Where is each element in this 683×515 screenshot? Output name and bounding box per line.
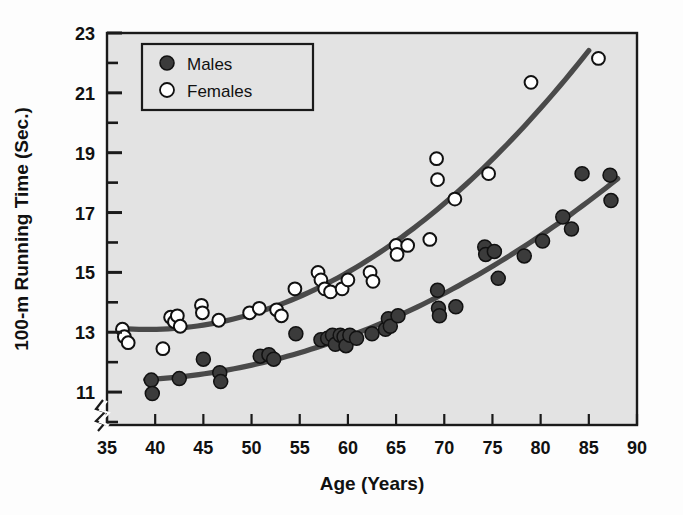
data-point <box>156 342 169 355</box>
data-point <box>604 194 618 208</box>
data-point <box>391 309 405 323</box>
data-point <box>592 52 605 65</box>
data-point <box>487 244 501 258</box>
y-tick-label: 17 <box>75 204 95 224</box>
x-tick-label: 80 <box>531 438 551 458</box>
x-tick-label: 65 <box>386 438 406 458</box>
y-tick-label: 23 <box>75 24 95 44</box>
data-point <box>172 372 186 386</box>
data-point <box>536 234 550 248</box>
data-point <box>423 233 436 246</box>
data-point <box>289 282 302 295</box>
data-point <box>431 283 445 297</box>
data-point <box>603 168 617 182</box>
data-point <box>431 173 444 186</box>
data-point <box>122 336 135 349</box>
y-tick-label: 19 <box>75 144 95 164</box>
data-point <box>491 271 505 285</box>
data-point <box>525 76 538 89</box>
data-point <box>556 210 570 224</box>
data-point <box>145 387 159 401</box>
x-tick-label: 70 <box>434 438 454 458</box>
data-point <box>289 327 303 341</box>
y-tick-label: 21 <box>75 84 95 104</box>
x-tick-label: 35 <box>97 438 117 458</box>
chart-legend: Males Females <box>142 44 313 110</box>
data-point <box>253 302 266 315</box>
x-tick-label: 55 <box>290 438 310 458</box>
data-point <box>367 275 380 288</box>
y-axis-title: 100-m Running Time (Sec.) <box>11 107 32 351</box>
legend-marker-females <box>160 83 174 97</box>
data-point <box>401 239 414 252</box>
data-point <box>144 373 158 387</box>
x-tick-label: 90 <box>627 438 647 458</box>
x-tick-label: 40 <box>145 438 165 458</box>
data-point <box>564 222 578 236</box>
data-point <box>448 193 461 206</box>
x-tick-label: 85 <box>579 438 599 458</box>
x-tick-label: 45 <box>193 438 213 458</box>
y-tick-label: 13 <box>75 323 95 343</box>
data-point <box>575 167 589 181</box>
data-point <box>196 352 210 366</box>
data-point <box>267 352 281 366</box>
data-point <box>517 249 531 263</box>
data-point <box>342 273 355 286</box>
data-point <box>212 314 225 327</box>
data-point <box>350 331 364 345</box>
data-point <box>391 248 404 261</box>
y-tick-label: 11 <box>76 383 95 403</box>
data-point <box>432 309 446 323</box>
data-point <box>482 167 495 180</box>
y-tick-label: 15 <box>75 263 95 283</box>
data-point <box>196 306 209 319</box>
data-point <box>275 309 288 322</box>
legend-label-females: Females <box>187 82 252 101</box>
legend-marker-males <box>160 56 174 70</box>
data-point <box>365 327 379 341</box>
data-point <box>214 375 228 389</box>
x-tick-label: 60 <box>338 438 358 458</box>
legend-label-males: Males <box>187 55 232 74</box>
x-tick-label: 75 <box>482 438 502 458</box>
x-tick-label: 50 <box>242 438 262 458</box>
data-point <box>174 320 187 333</box>
x-axis-title: Age (Years) <box>320 473 425 494</box>
data-point <box>449 300 463 314</box>
data-point <box>430 152 443 165</box>
chart-figure: 11131517192123 354045505560657075808590 … <box>0 0 683 515</box>
scatter-chart: 11131517192123 354045505560657075808590 … <box>0 0 683 515</box>
